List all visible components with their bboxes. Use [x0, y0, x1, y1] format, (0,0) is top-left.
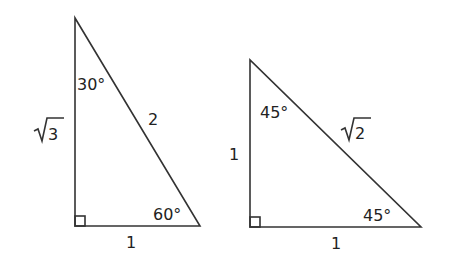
triangle-30-60-90: 30° 60° 2 1 3 [34, 18, 200, 252]
special-right-triangles-diagram: 30° 60° 2 1 3 45° 45° 1 1 2 [0, 0, 451, 270]
radicand-2: 2 [355, 124, 365, 143]
triangle-45-45-90: 45° 45° 1 1 2 [229, 60, 421, 253]
angle-label-45-top: 45° [260, 103, 288, 122]
vertical-side-label: 1 [229, 145, 239, 164]
hypotenuse-label-sqrt2: 2 [341, 118, 371, 143]
angle-label-60: 60° [153, 205, 181, 224]
base-label: 1 [331, 234, 341, 253]
angle-label-45-bottom: 45° [363, 206, 391, 225]
base-label: 1 [126, 233, 136, 252]
triangle-1-outline [75, 18, 200, 226]
radicand-3: 3 [48, 125, 58, 144]
right-angle-marker [75, 216, 85, 226]
angle-label-30: 30° [77, 75, 105, 94]
hypotenuse-label: 2 [148, 110, 158, 129]
triangle-2-outline [250, 60, 421, 227]
vertical-side-label-sqrt3: 3 [34, 118, 64, 144]
right-angle-marker [250, 217, 260, 227]
